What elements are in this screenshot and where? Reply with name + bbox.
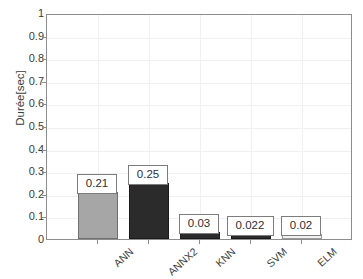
x-axis-tick-mark bbox=[97, 240, 98, 244]
x-axis-tick-mark bbox=[199, 240, 200, 244]
data-label-elm: 0.02 bbox=[281, 216, 321, 236]
gridline-horizontal bbox=[47, 105, 351, 106]
caption-strip: . . .. . . ... . ... . .. . . . .. . . .… bbox=[0, 272, 363, 279]
gridline-horizontal bbox=[47, 151, 351, 152]
x-axis-tick-mark bbox=[301, 240, 302, 244]
x-axis-tick-label-ann: ANN bbox=[112, 246, 136, 269]
gridline-vertical bbox=[302, 15, 303, 239]
y-axis-label: Durée[sec] bbox=[14, 38, 26, 158]
y-axis-tick-label: 1 bbox=[38, 8, 44, 19]
x-axis-tick-mark bbox=[250, 240, 251, 244]
bar-ann bbox=[78, 192, 118, 239]
gridline-horizontal bbox=[47, 83, 351, 84]
gridline-vertical bbox=[200, 15, 201, 239]
gridline-horizontal bbox=[47, 60, 351, 61]
x-axis-tick-label-knn: KNN bbox=[214, 246, 238, 269]
x-axis-tick-mark bbox=[148, 240, 149, 244]
data-label-annx2: 0.25 bbox=[128, 165, 168, 185]
bar-annx2 bbox=[129, 183, 169, 240]
data-label-ann: 0.21 bbox=[77, 174, 117, 194]
figure-canvas: Durée[sec] 00.10.20.30.40.50.60.70.80.91… bbox=[0, 0, 363, 279]
data-label-svm: 0.022 bbox=[227, 216, 274, 236]
gridline-horizontal bbox=[47, 128, 351, 129]
x-axis-tick-label-svm: SVM bbox=[265, 246, 289, 269]
gridline-horizontal bbox=[47, 38, 351, 39]
y-axis-tick-label: 0 bbox=[38, 234, 44, 245]
data-label-knn: 0.03 bbox=[179, 214, 219, 234]
plot-area bbox=[46, 14, 352, 240]
gridline-vertical bbox=[251, 15, 252, 239]
x-axis-tick-label-elm: ELM bbox=[316, 246, 339, 269]
